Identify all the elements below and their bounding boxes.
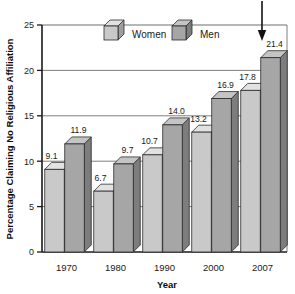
bar-front-face bbox=[241, 90, 261, 252]
y-tick-label-10: 10 bbox=[24, 157, 34, 167]
value-label-women-1970: 9.1 bbox=[46, 151, 58, 161]
bar-men-1990 bbox=[163, 118, 190, 252]
y-tick-label-15: 15 bbox=[24, 111, 34, 121]
bar-front-face bbox=[143, 155, 163, 252]
x-category-label-1980: 1980 bbox=[105, 262, 126, 273]
value-label-men-1990: 14.0 bbox=[168, 106, 185, 116]
value-label-women-1980: 6.7 bbox=[95, 173, 107, 183]
bar-side-face bbox=[231, 92, 238, 252]
bar-side-face bbox=[182, 118, 189, 252]
x-category-label-1970: 1970 bbox=[56, 262, 77, 273]
bar-front-face bbox=[65, 144, 85, 252]
y-tick-label-5: 5 bbox=[29, 202, 34, 212]
bar-men-2007 bbox=[261, 51, 288, 252]
cube-front-face bbox=[104, 26, 118, 40]
y-tick-label-20: 20 bbox=[24, 66, 34, 76]
bar-front-face bbox=[45, 169, 65, 252]
bar-men-1970 bbox=[65, 137, 92, 252]
bar-front-face bbox=[212, 99, 232, 252]
bar-front-face bbox=[261, 58, 281, 252]
x-category-label-2000: 2000 bbox=[203, 262, 224, 273]
legend-label-men: Men bbox=[200, 29, 219, 40]
value-label-men-2007: 21.4 bbox=[266, 39, 283, 49]
x-category-label-1990: 1990 bbox=[154, 262, 175, 273]
bar-front-face bbox=[163, 125, 183, 252]
bar-side-face bbox=[84, 137, 91, 252]
bar-front-face bbox=[94, 191, 114, 252]
bar-front-face bbox=[114, 164, 134, 252]
value-label-women-1990: 10.7 bbox=[141, 136, 158, 146]
value-label-women-2007: 17.8 bbox=[239, 72, 256, 82]
bar-side-face bbox=[280, 51, 287, 252]
bar-side-face bbox=[133, 157, 140, 252]
bar-men-2000 bbox=[212, 92, 239, 252]
legend-swatch-women bbox=[104, 20, 124, 40]
y-axis-title: Percentage Claiming No Religious Affilia… bbox=[4, 38, 15, 239]
cube-front-face bbox=[172, 26, 186, 40]
chart-canvas: 0510152025 9.111.96.79.710.714.013.216.9… bbox=[0, 0, 295, 294]
bar-chart: 0510152025 9.111.96.79.710.714.013.216.9… bbox=[0, 0, 295, 294]
value-label-men-2000: 16.9 bbox=[217, 80, 234, 90]
value-label-men-1970: 11.9 bbox=[70, 125, 86, 135]
bar-men-1980 bbox=[114, 157, 141, 252]
value-label-men-1980: 9.7 bbox=[122, 145, 134, 155]
x-category-label-2007: 2007 bbox=[252, 262, 273, 273]
y-tick-label-0: 0 bbox=[29, 247, 34, 257]
x-axis-title: Year bbox=[157, 279, 177, 290]
y-tick-label-25: 25 bbox=[24, 20, 34, 30]
value-label-women-2000: 13.2 bbox=[190, 114, 207, 124]
legend-swatch-men bbox=[172, 20, 192, 40]
legend-label-women: Women bbox=[132, 29, 166, 40]
bar-front-face bbox=[192, 132, 212, 252]
